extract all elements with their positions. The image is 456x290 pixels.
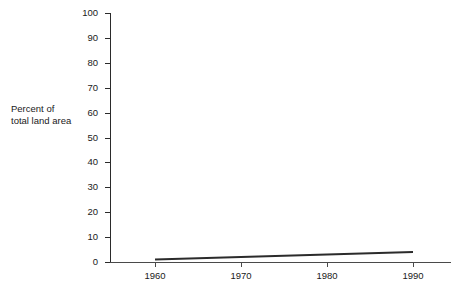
plot-area (0, 0, 456, 290)
series-line-percent-of-total-land-area (155, 252, 413, 259)
line-chart: Percent oftotal land area 10090807060504… (0, 0, 456, 290)
